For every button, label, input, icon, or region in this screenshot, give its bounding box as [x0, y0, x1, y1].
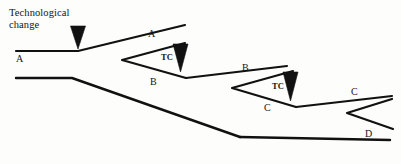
label-tc-second: TC [161, 52, 173, 62]
technological-change-marker-2-icon [173, 44, 188, 72]
label-b-mid: B [150, 76, 157, 88]
lineage-line-a-trunk [16, 78, 240, 137]
label-c-upper: C [351, 86, 358, 98]
label-a-upper: A [148, 28, 155, 40]
lineage-line-c-upper [296, 96, 392, 107]
technological-change-diagram: Technological change A A TC B B TC C C D [0, 0, 401, 164]
technological-change-marker-1-icon [71, 26, 86, 49]
label-tc-third: TC [272, 81, 284, 91]
label-c-lower: C [264, 102, 271, 114]
fork-vertex-4 [347, 99, 393, 129]
label-b-upper: B [242, 62, 249, 74]
label-d: D [365, 128, 372, 140]
label-a-root: A [16, 53, 23, 65]
technological-change-marker-3-icon [283, 72, 298, 101]
caption-label: Technological change [9, 7, 70, 32]
